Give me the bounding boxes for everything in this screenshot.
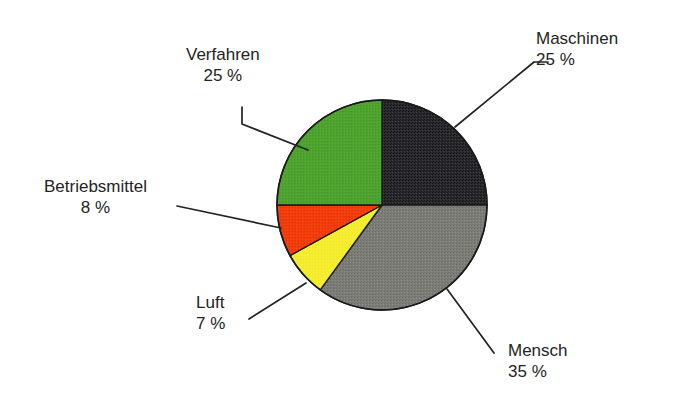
slice-label-luft: Luft 7 % (196, 292, 225, 334)
pie-slice-maschinen (382, 100, 487, 205)
leader-line-betriebsmittel (177, 206, 281, 228)
slice-label-mensch-name: Mensch (508, 340, 568, 361)
slice-label-betriebsmittel-value: 8 % (44, 197, 147, 218)
slice-label-luft-value: 7 % (196, 313, 225, 334)
pie-slices-group (277, 100, 487, 310)
slice-label-luft-name: Luft (196, 292, 225, 313)
slice-label-betriebsmittel-name: Betriebsmittel (44, 176, 147, 197)
leader-line-maschinen (455, 62, 548, 127)
slice-label-maschinen-name: Maschinen (536, 28, 618, 49)
slice-label-verfahren-value: 25 % (186, 65, 260, 86)
pie-slice-verfahren (277, 100, 382, 205)
slice-label-mensch-value: 35 % (508, 361, 568, 382)
slice-label-maschinen: Maschinen 25 % (536, 28, 618, 70)
slice-label-verfahren-name: Verfahren (186, 44, 260, 65)
leader-line-luft (249, 283, 306, 319)
slice-label-maschinen-value: 25 % (536, 49, 618, 70)
leader-line-mensch (447, 289, 494, 353)
chart-page: Verfahren 25 % Maschinen 25 % Betriebsmi… (0, 0, 675, 415)
slice-label-verfahren: Verfahren 25 % (186, 44, 260, 86)
slice-label-betriebsmittel: Betriebsmittel 8 % (44, 176, 147, 218)
slice-label-mensch: Mensch 35 % (508, 340, 568, 382)
